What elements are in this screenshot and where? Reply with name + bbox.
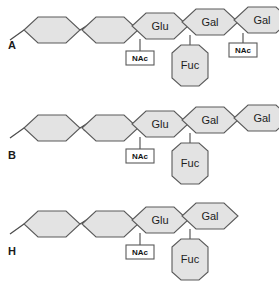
glycan-diagram: Glu Gal Gal NAc Fuc NAc A <box>0 0 279 288</box>
nac-label-1: NAc <box>132 152 149 161</box>
sugar-label-gal-2: Gal <box>253 14 270 26</box>
backbone-hexagon-2 <box>82 17 138 43</box>
sugar-label-fuc: Fuc <box>181 157 200 169</box>
backbone-hexagon-1 <box>24 211 80 237</box>
panel-b: Glu Gal Gal NAc Fuc B <box>0 96 279 192</box>
backbone-hexagon-2 <box>82 211 138 237</box>
sugar-label-glu: Glu <box>151 214 168 226</box>
sugar-label-gal-1: Gal <box>201 16 218 28</box>
sugar-label-gal-2: Gal <box>253 112 270 124</box>
sugar-label-glu: Glu <box>151 118 168 130</box>
panel-label-b: B <box>8 150 16 161</box>
panel-h-graphic: Glu Gal NAc Fuc <box>0 192 279 288</box>
nac-label-1: NAc <box>132 248 149 257</box>
panel-a: Glu Gal Gal NAc Fuc NAc A <box>0 0 279 96</box>
panel-a-graphic: Glu Gal Gal NAc Fuc NAc <box>0 0 279 96</box>
panel-label-h: H <box>8 246 16 257</box>
backbone-hexagon-2 <box>82 115 138 141</box>
sugar-label-gal-1: Gal <box>201 210 218 222</box>
nac-label-1: NAc <box>132 54 149 63</box>
backbone-hexagon-1 <box>24 115 80 141</box>
bond-tail <box>10 128 24 138</box>
sugar-label-fuc: Fuc <box>181 253 200 265</box>
nac-label-2: NAc <box>235 46 252 55</box>
sugar-label-fuc: Fuc <box>181 59 200 71</box>
backbone-hexagon-1 <box>24 17 80 43</box>
panel-b-graphic: Glu Gal Gal NAc Fuc <box>0 96 279 192</box>
sugar-label-glu: Glu <box>151 20 168 32</box>
bond-tail <box>10 224 24 234</box>
panel-label-a: A <box>8 40 16 51</box>
panel-h: Glu Gal NAc Fuc H <box>0 192 279 288</box>
sugar-label-gal-1: Gal <box>201 114 218 126</box>
